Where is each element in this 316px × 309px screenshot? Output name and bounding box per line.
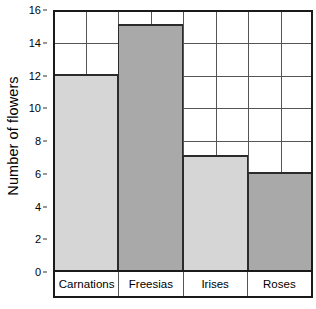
y-axis-tick-labels: 0246810121416	[26, 10, 47, 272]
plot-area	[53, 10, 313, 272]
y-axis-tick-mark	[43, 75, 47, 76]
y-axis-title: Number of flowers	[0, 0, 26, 272]
bar-freesias	[118, 24, 183, 270]
y-axis-tick-label: 6	[35, 168, 41, 180]
x-axis-labels: CarnationsFreesiasIrisesRoses	[53, 272, 313, 298]
y-axis-tick-mark	[43, 173, 47, 174]
y-axis-tick-mark	[43, 141, 47, 142]
y-axis-tick-label: 8	[35, 135, 41, 147]
x-axis-label-irises: Irises	[184, 272, 248, 296]
y-axis-tick-label: 2	[35, 233, 41, 245]
bar-chart: Number of flowers 0246810121416 Carnatio…	[0, 0, 316, 309]
bars-layer	[55, 12, 311, 270]
y-axis-tick-mark	[43, 108, 47, 109]
y-axis-title-text: Number of flowers	[5, 76, 21, 195]
y-axis-tick-label: 4	[35, 201, 41, 213]
x-axis-label-carnations: Carnations	[55, 272, 119, 296]
x-axis-label-roses: Roses	[248, 272, 311, 296]
bar-carnations	[53, 74, 118, 271]
y-axis-tick-mark	[43, 272, 47, 273]
x-axis-label-freesias: Freesias	[119, 272, 183, 296]
y-axis-tick-label: 14	[29, 37, 41, 49]
y-axis-tick-mark	[43, 239, 47, 240]
y-axis-tick-label: 16	[29, 4, 41, 16]
bar-irises	[183, 155, 248, 270]
y-axis-tick-mark	[43, 42, 47, 43]
y-axis-tick-mark	[43, 206, 47, 207]
y-axis-tick-mark	[43, 10, 47, 11]
y-axis-tick-label: 12	[29, 70, 41, 82]
bar-roses	[248, 172, 313, 270]
y-axis-tick-label: 0	[35, 266, 41, 278]
y-axis-tick-label: 10	[29, 102, 41, 114]
